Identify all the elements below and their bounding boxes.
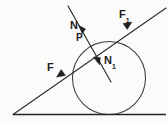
label-force-upper-right: F1 — [119, 9, 130, 22]
figure-canvas — [0, 0, 168, 122]
label-force-upper-right-subscript: 1 — [126, 17, 130, 24]
normal-line — [68, 6, 111, 82]
label-normal-lower-text: N — [104, 54, 112, 66]
label-force-lower-left-text: F — [47, 61, 54, 73]
arrowhead-normal-lower — [93, 57, 100, 65]
label-force-upper-right-text: F — [119, 8, 126, 20]
label-normal-lower: N1 — [104, 55, 116, 68]
label-normal-upper-text: N — [70, 19, 78, 31]
label-normal-upper: N — [70, 20, 78, 31]
diagonal-line — [13, 8, 166, 115]
arrowhead-force-lower-left — [56, 69, 65, 77]
label-force-lower-left: F — [47, 62, 54, 73]
label-point-p-text: P — [76, 32, 83, 43]
label-point-p: P — [76, 33, 83, 43]
geometry-figure: N P N1 F1 F — [0, 0, 168, 122]
label-normal-lower-subscript: 1 — [112, 63, 116, 70]
